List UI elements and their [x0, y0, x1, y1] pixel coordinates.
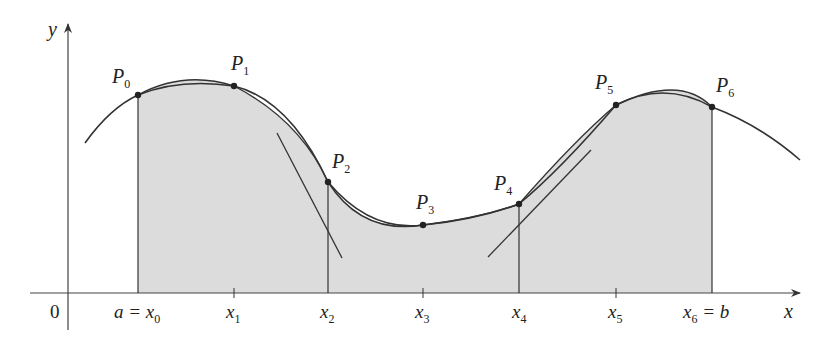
- label-p1: P1: [230, 52, 249, 78]
- simpson-rule-diagram: P0 P1 P2 P3 P4 P5 P6 y x 0 a = x0 x1 x2 …: [0, 0, 838, 352]
- point-p5: [613, 102, 619, 108]
- tick-label-x5: x5: [607, 301, 622, 326]
- point-p4: [516, 201, 522, 207]
- point-p0: [135, 92, 141, 98]
- point-p3: [420, 222, 426, 228]
- shaded-area: [138, 80, 712, 293]
- label-p5: P5: [594, 71, 613, 97]
- tick-label-x6: x6 = b: [682, 301, 729, 326]
- x-axis-label: x: [783, 300, 793, 322]
- point-p1: [231, 83, 237, 89]
- point-p2: [325, 179, 331, 185]
- tick-label-x2: x2: [319, 301, 334, 326]
- label-p3: P3: [415, 191, 434, 217]
- point-p6: [709, 104, 715, 110]
- label-p4: P4: [493, 172, 512, 198]
- tick-label-x4: x4: [511, 301, 526, 326]
- label-p6: P6: [715, 74, 734, 100]
- y-axis-label: y: [46, 18, 57, 41]
- tick-label-x1: x1: [225, 301, 240, 326]
- label-p2: P2: [331, 150, 350, 176]
- origin-label: 0: [50, 301, 60, 322]
- tick-label-x0: a = x0: [114, 301, 160, 326]
- label-p0: P0: [111, 65, 130, 91]
- tick-label-x3: x3: [414, 301, 429, 326]
